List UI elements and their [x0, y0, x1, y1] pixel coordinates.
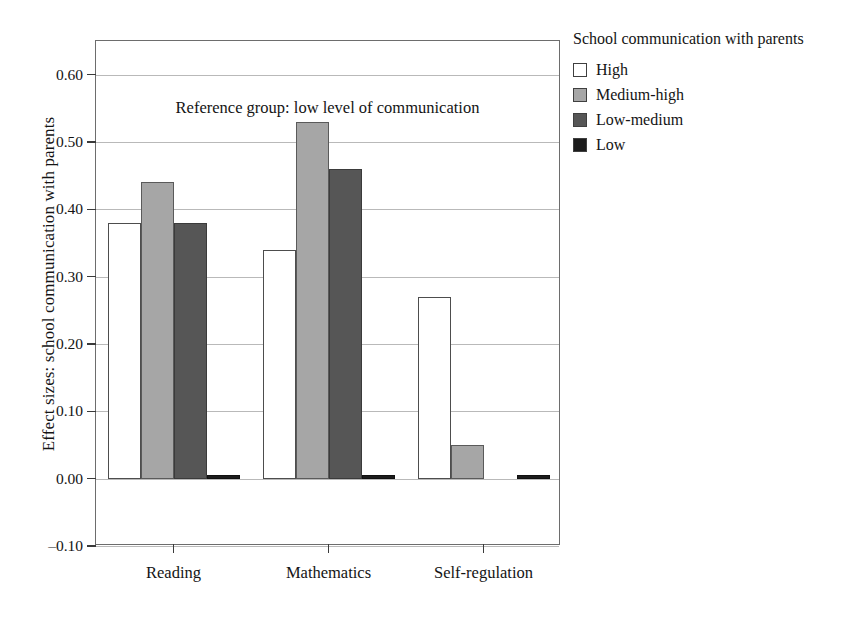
legend-item: High	[573, 57, 841, 82]
bar	[418, 297, 451, 479]
gridline	[96, 479, 559, 480]
bar	[329, 169, 362, 479]
bar	[362, 475, 395, 479]
y-axis-tick-label: 0.60	[56, 66, 83, 84]
y-axis-tick	[87, 478, 96, 480]
y-axis-tick-label: 0.50	[56, 133, 83, 151]
bar	[141, 182, 174, 478]
y-axis-tick-label: 0.10	[56, 402, 83, 420]
legend-item-label: Low-medium	[596, 111, 683, 129]
legend-swatch-icon	[573, 88, 587, 102]
bar	[174, 223, 207, 479]
legend-item: Low-medium	[573, 107, 841, 132]
y-axis-tick-label: –0.10	[48, 537, 83, 555]
legend-swatch-icon	[573, 113, 587, 127]
legend-item: Low	[573, 132, 841, 157]
y-axis-tick	[87, 74, 96, 76]
x-axis-tick	[483, 544, 485, 553]
y-axis-tick	[87, 411, 96, 413]
bar	[517, 475, 550, 479]
bar	[108, 223, 141, 479]
y-axis-tick	[87, 545, 96, 547]
y-axis-tick-label: 0.00	[56, 470, 83, 488]
legend-title: School communication with parents	[573, 30, 841, 48]
y-axis-tick	[87, 276, 96, 278]
legend-item-label: High	[596, 61, 628, 79]
bar	[451, 445, 484, 479]
y-axis-tick	[87, 141, 96, 143]
legend: School communication with parents HighMe…	[573, 30, 841, 157]
bar	[207, 475, 240, 479]
legend-swatch-icon	[573, 138, 587, 152]
bar	[263, 250, 296, 479]
legend-item: Medium-high	[573, 82, 841, 107]
y-axis-tick	[87, 209, 96, 211]
x-axis-tick-label: Self-regulation	[434, 563, 533, 583]
reference-group-annotation: Reference group: low level of communicat…	[96, 98, 559, 118]
bar	[296, 122, 329, 479]
legend-item-group: HighMedium-highLow-mediumLow	[573, 57, 841, 157]
x-axis-tick	[328, 544, 330, 553]
x-axis-tick-label: Mathematics	[286, 563, 371, 583]
y-axis-tick-label: 0.30	[56, 268, 83, 286]
y-axis-tick-label: 0.40	[56, 200, 83, 218]
x-axis-tick	[173, 544, 175, 553]
y-axis-tick-label: 0.20	[56, 335, 83, 353]
gridline	[96, 75, 559, 76]
x-axis-tick-label: Reading	[146, 563, 201, 583]
y-axis-tick	[87, 343, 96, 345]
legend-item-label: Medium-high	[596, 86, 684, 104]
legend-item-label: Low	[596, 136, 625, 154]
legend-swatch-icon	[573, 63, 587, 77]
figure-container: Effect sizes: school communication with …	[0, 0, 848, 619]
plot-area: –0.100.000.100.200.300.400.500.60 Readin…	[95, 40, 560, 545]
